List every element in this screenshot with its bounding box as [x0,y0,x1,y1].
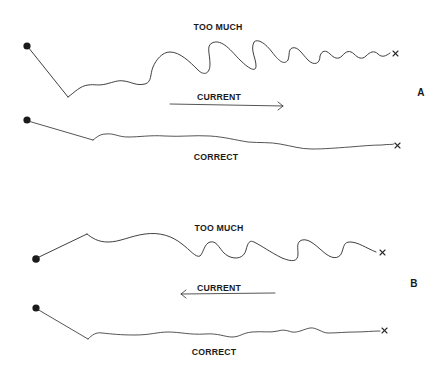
panel-a-too-much-label: TOO MUCH [194,21,243,32]
leader-segment [28,121,93,140]
leader-segment [37,309,88,339]
end-x-icon [380,250,385,255]
leader-segment [37,234,87,258]
end-x-icon [395,143,400,148]
panel-b-too-much-label: TOO MUCH [195,222,244,233]
panel-b-too-much-line [32,233,385,262]
start-dot-icon [23,116,30,123]
panel-a-correct-line [23,116,400,149]
panel-b-correct-label: CORRECT [192,346,237,357]
drift-curve [88,328,380,339]
drift-curve [87,233,376,260]
leader-segment [28,47,68,97]
panel-b-current-label: CURRENT [197,282,241,293]
start-dot-icon [32,304,39,311]
drift-curve [68,41,390,97]
panel-b-letter: B [410,278,417,289]
panel-b-correct-line [32,304,387,339]
panel-a-correct-label: CORRECT [194,151,239,162]
end-x-icon [382,328,387,333]
drift-curve [93,134,394,149]
panel-a-current-label: CURRENT [197,91,241,102]
panel-a-letter: A [417,87,424,98]
end-x-icon [393,51,398,56]
panel-a-too-much-line [23,41,398,97]
diagram-canvas [0,0,445,370]
current-arrow-right-icon [170,102,283,110]
start-dot-icon [32,255,40,263]
